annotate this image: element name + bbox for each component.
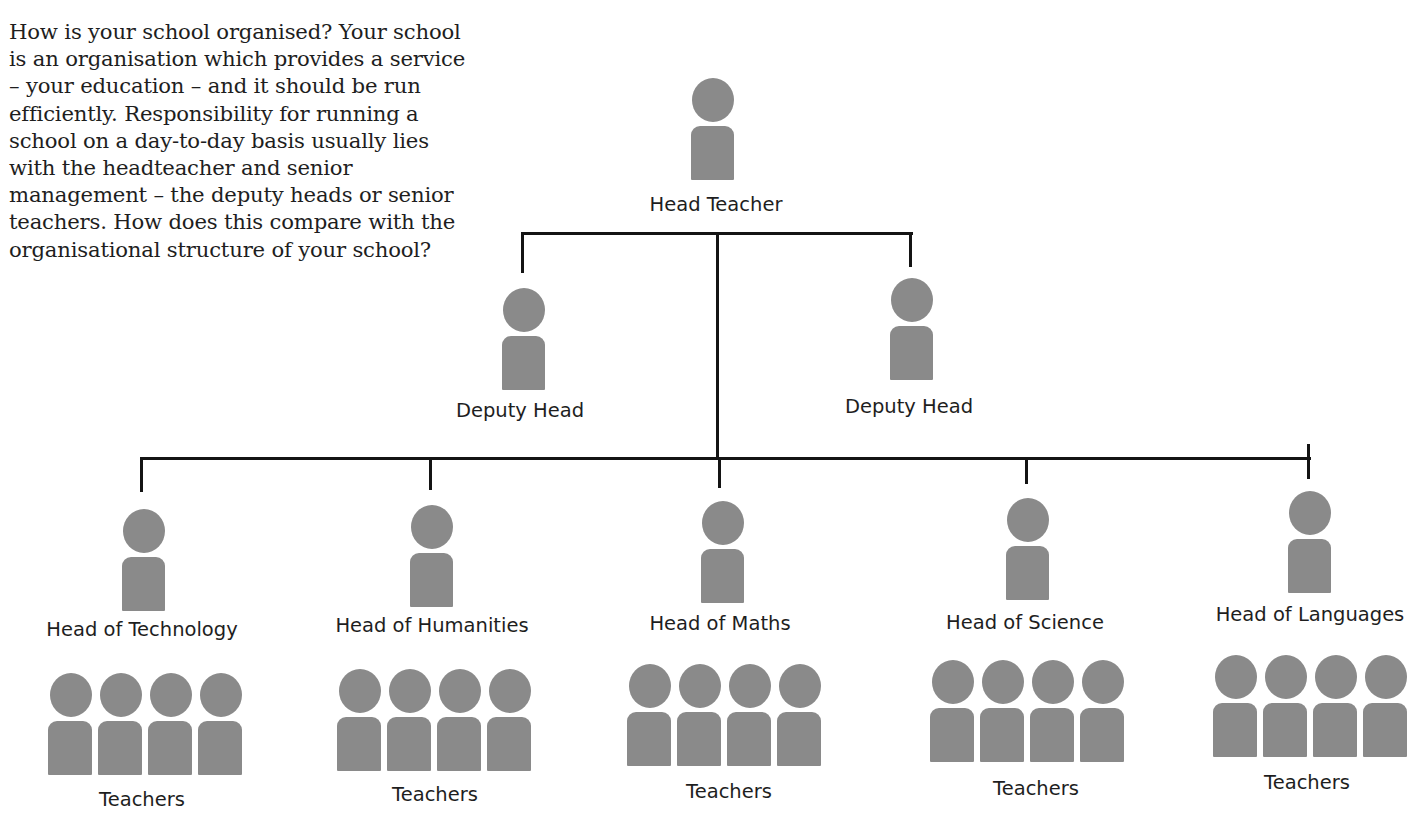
person-body [1288, 539, 1331, 593]
person-body [890, 326, 933, 380]
person-icon [889, 278, 935, 380]
team-label: Teachers [99, 788, 185, 811]
team-label: Teachers [1264, 771, 1350, 794]
connector-departments-horizontal [140, 457, 1311, 460]
connector-dept-drop-1 [140, 457, 143, 492]
teachers-group-icon [1213, 655, 1413, 757]
person-head [123, 509, 165, 553]
person-icon [501, 288, 547, 390]
person-icon [690, 78, 736, 180]
person-body [410, 553, 453, 607]
person-body [502, 336, 545, 390]
person-icon [700, 501, 746, 603]
person-head [891, 278, 933, 322]
connector-dept-drop-3 [718, 457, 721, 488]
person-body [1006, 546, 1049, 600]
connector-deputy-right-drop [909, 232, 912, 267]
person-icon [409, 505, 455, 607]
intro-paragraph: How is your school organised? Your schoo… [9, 18, 479, 263]
node-label: Head of Languages [1216, 603, 1405, 626]
connector-dept-drop-2 [429, 457, 432, 490]
person-body [701, 549, 744, 603]
person-body [691, 126, 734, 180]
node-label: Head of Maths [649, 612, 790, 635]
node-label: Head of Science [946, 611, 1104, 634]
teachers-group-icon [48, 673, 248, 775]
person-head [503, 288, 545, 332]
connector-dept-drop-5 [1307, 444, 1310, 479]
person-head [411, 505, 453, 549]
teachers-group-icon [627, 664, 827, 766]
teachers-group-icon [930, 660, 1130, 762]
team-label: Teachers [993, 777, 1079, 800]
person-icon [1287, 491, 1333, 593]
person-head [702, 501, 744, 545]
node-label: Head of Technology [46, 618, 237, 641]
person-icon [1005, 498, 1051, 600]
connector-deputy-left-drop [521, 232, 524, 273]
node-label: Head Teacher [650, 193, 783, 216]
node-label: Deputy Head [845, 395, 973, 418]
person-head [1007, 498, 1049, 542]
connector-trunk [716, 232, 719, 460]
node-label: Deputy Head [456, 399, 584, 422]
person-icon [121, 509, 167, 611]
teachers-group-icon [337, 669, 537, 771]
person-head [692, 78, 734, 122]
person-head [1289, 491, 1331, 535]
team-label: Teachers [686, 780, 772, 803]
team-label: Teachers [392, 783, 478, 806]
connector-dept-drop-4 [1025, 457, 1028, 484]
node-label: Head of Humanities [335, 614, 528, 637]
person-body [122, 557, 165, 611]
